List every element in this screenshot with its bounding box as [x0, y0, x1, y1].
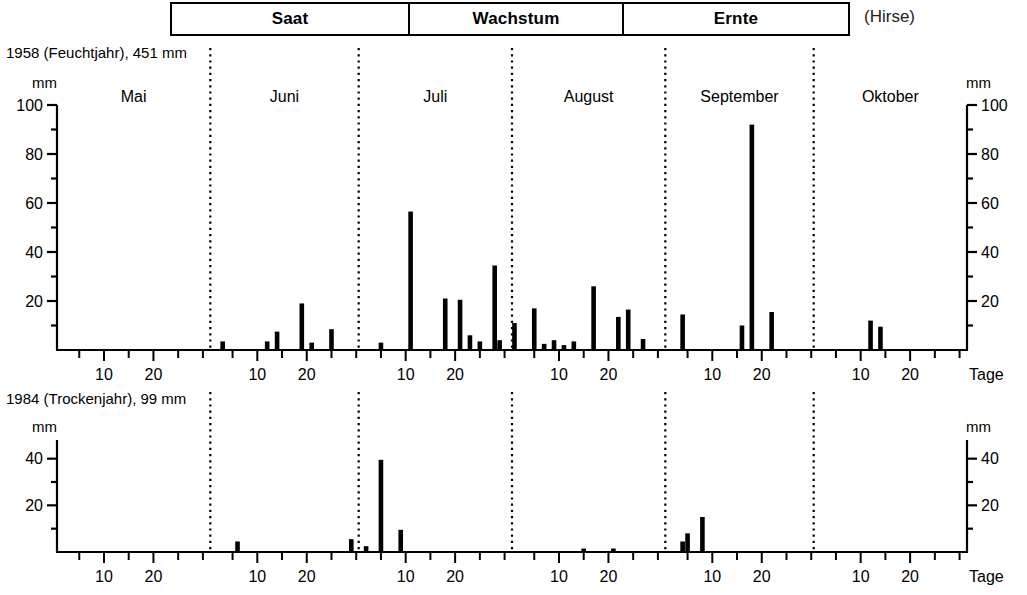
- month-label: Oktober: [862, 88, 920, 105]
- precipitation-bar: [309, 343, 314, 350]
- x-tick-label: 20: [901, 568, 919, 585]
- phase-label-ernte: Ernte: [714, 9, 758, 29]
- x-axis-unit-label: Tage: [969, 568, 1004, 585]
- crop-label: (Hirse): [864, 7, 915, 27]
- precipitation-bar: [562, 345, 567, 350]
- precipitation-bar: [868, 321, 873, 350]
- x-tick-label: 20: [446, 568, 464, 585]
- precipitation-bar: [458, 300, 463, 350]
- precipitation-bar: [878, 327, 883, 350]
- chart-panel-1984: 1984 (Trockenjahr), 99 mm mm mm 20204040…: [0, 390, 1027, 590]
- x-tick-label: 20: [600, 366, 618, 383]
- x-tick-label: 20: [145, 568, 163, 585]
- precipitation-bar: [379, 460, 384, 552]
- precipitation-bar: [591, 286, 596, 350]
- precipitation-bar: [750, 125, 755, 350]
- x-tick-label: 20: [753, 568, 771, 585]
- y-tick-label-left: 40: [25, 450, 43, 467]
- month-label: Juni: [270, 88, 299, 105]
- phase-cell-saat: Saat: [172, 4, 410, 34]
- phase-cell-ernte: Ernte: [624, 4, 848, 34]
- x-tick-label: 20: [298, 366, 316, 383]
- plot-area-1958: 20204040606080801001001020Mai1020Juni102…: [0, 44, 1027, 384]
- precipitation-bar: [220, 341, 225, 350]
- precipitation-bar: [572, 341, 577, 350]
- precipitation-bar: [349, 539, 354, 552]
- precipitation-bar: [275, 332, 280, 350]
- precipitation-bar: [542, 344, 547, 350]
- phase-cell-wachstum: Wachstum: [410, 4, 624, 34]
- x-tick-label: 20: [145, 366, 163, 383]
- precipitation-bar: [443, 299, 448, 350]
- y-tick-label-left: 100: [16, 97, 43, 114]
- precipitation-bar: [552, 340, 557, 350]
- precipitation-bar: [468, 335, 473, 350]
- y-tick-label-left: 60: [25, 195, 43, 212]
- x-tick-label: 20: [753, 366, 771, 383]
- month-label: Juli: [423, 88, 447, 105]
- x-tick-label: 20: [901, 366, 919, 383]
- x-tick-label: 10: [550, 366, 568, 383]
- y-tick-label-left: 20: [25, 293, 43, 310]
- precipitation-chart-page: Saat Wachstum Ernte (Hirse) 1958 (Feucht…: [0, 0, 1027, 595]
- y-tick-label-right: 80: [981, 146, 999, 163]
- x-tick-label: 20: [446, 366, 464, 383]
- x-tick-label: 10: [248, 568, 266, 585]
- y-tick-label-right: 100: [981, 97, 1008, 114]
- phase-label-saat: Saat: [272, 9, 309, 29]
- x-tick-label: 10: [248, 366, 266, 383]
- precipitation-bar: [478, 341, 483, 350]
- precipitation-bar: [611, 549, 616, 553]
- x-tick-label: 20: [298, 568, 316, 585]
- precipitation-bar: [300, 303, 305, 350]
- chart-panel-1958: 1958 (Feuchtjahr), 451 mm mm mm 20204040…: [0, 44, 1027, 384]
- x-tick-label: 10: [397, 366, 415, 383]
- plot-area-1984: 20204040102010201020102010201020Tage: [0, 390, 1027, 590]
- x-tick-label: 10: [397, 568, 415, 585]
- precipitation-bar: [680, 314, 685, 350]
- x-tick-label: 10: [852, 568, 870, 585]
- y-tick-label-right: 40: [981, 244, 999, 261]
- x-tick-label: 10: [95, 568, 113, 585]
- x-tick-label: 20: [600, 568, 618, 585]
- precipitation-bar: [398, 530, 403, 552]
- x-tick-label: 10: [703, 568, 721, 585]
- x-axis-unit-label: Tage: [969, 366, 1004, 383]
- y-tick-label-right: 20: [981, 497, 999, 514]
- x-tick-label: 10: [852, 366, 870, 383]
- precipitation-bar: [364, 546, 369, 552]
- precipitation-bar: [497, 340, 502, 350]
- precipitation-bar: [235, 542, 240, 553]
- precipitation-bar: [685, 533, 690, 552]
- precipitation-bar: [265, 341, 270, 350]
- precipitation-bar: [700, 517, 705, 552]
- month-label: September: [700, 88, 779, 105]
- y-tick-label-right: 20: [981, 293, 999, 310]
- month-label: August: [564, 88, 614, 105]
- growth-phase-bar: Saat Wachstum Ernte: [170, 2, 850, 36]
- x-tick-label: 10: [703, 366, 721, 383]
- precipitation-bar: [492, 265, 497, 350]
- precipitation-bar: [581, 549, 586, 553]
- precipitation-bar: [512, 323, 517, 350]
- x-tick-label: 10: [550, 568, 568, 585]
- y-tick-label-right: 40: [981, 450, 999, 467]
- precipitation-bar: [329, 329, 334, 350]
- phase-label-wachstum: Wachstum: [473, 9, 560, 29]
- y-tick-label-left: 80: [25, 146, 43, 163]
- precipitation-bar: [740, 326, 745, 351]
- precipitation-bar: [408, 212, 413, 350]
- y-tick-label-left: 40: [25, 244, 43, 261]
- y-tick-label-right: 60: [981, 195, 999, 212]
- precipitation-bar: [641, 339, 646, 350]
- precipitation-bar: [616, 317, 621, 350]
- x-tick-label: 10: [95, 366, 113, 383]
- precipitation-bar: [379, 343, 384, 350]
- y-tick-label-left: 20: [25, 497, 43, 514]
- precipitation-bar: [769, 312, 774, 350]
- precipitation-bar: [680, 542, 685, 553]
- precipitation-bar: [532, 308, 537, 350]
- precipitation-bar: [626, 310, 631, 350]
- month-label: Mai: [121, 88, 147, 105]
